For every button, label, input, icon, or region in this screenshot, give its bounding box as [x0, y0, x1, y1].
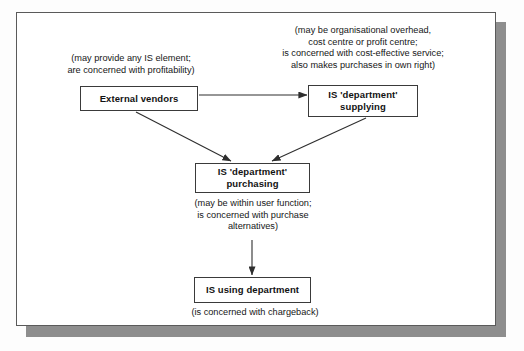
node-is-department-purchasing[interactable]: IS 'department' purchasing — [195, 163, 310, 193]
note-is-supplying: (may be organisational overhead, cost ce… — [252, 25, 474, 71]
note-is-purchasing: (may be within user function; is concern… — [178, 198, 328, 233]
note-is-using: (is concerned with chargeback) — [160, 307, 350, 319]
node-external-vendors[interactable]: External vendors — [80, 86, 198, 111]
node-is-department-supplying[interactable]: IS 'department' supplying — [308, 85, 418, 117]
node-is-using-department[interactable]: IS using department — [194, 277, 311, 303]
diagram-page: (may provide any IS element; are concern… — [0, 0, 524, 351]
note-external-vendors: (may provide any IS element; are concern… — [36, 53, 226, 76]
